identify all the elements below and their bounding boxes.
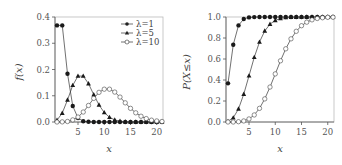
point-marker xyxy=(91,92,96,96)
point-marker xyxy=(128,106,132,110)
point-marker xyxy=(65,97,70,101)
point-marker xyxy=(97,102,102,106)
y-tick-label: 0.3 xyxy=(36,38,50,48)
x-tick-label: 20 xyxy=(151,127,162,137)
y-tick-label: 0.8 xyxy=(207,33,221,43)
point-marker xyxy=(160,119,164,123)
point-marker xyxy=(278,59,282,63)
point-marker xyxy=(81,73,86,77)
legend: λ=1 λ=5 λ=10 xyxy=(121,19,159,47)
point-marker xyxy=(55,23,59,27)
point-marker xyxy=(310,18,314,22)
point-marker xyxy=(107,87,111,91)
point-marker xyxy=(226,81,230,85)
point-marker xyxy=(118,95,122,99)
left-y-ticks: 0.00.10.20.30.4 xyxy=(36,12,55,127)
point-marker xyxy=(112,117,117,121)
x-tick-label: 20 xyxy=(322,127,333,137)
right-x-label: x xyxy=(277,143,283,154)
point-marker xyxy=(294,29,298,33)
point-marker xyxy=(231,120,235,124)
point-marker xyxy=(241,92,246,96)
point-marker xyxy=(102,120,106,124)
point-marker xyxy=(252,15,256,19)
point-marker xyxy=(60,110,65,114)
right-plot: 0.00.20.40.60.81.0 5101520 P(X≤x) x xyxy=(181,12,335,154)
point-marker xyxy=(263,97,267,101)
point-marker xyxy=(92,120,96,124)
y-tick-label: 0.0 xyxy=(36,117,50,127)
point-marker xyxy=(102,87,106,91)
y-tick-label: 1.0 xyxy=(207,12,221,22)
x-tick-label: 5 xyxy=(75,127,80,137)
right-series xyxy=(226,14,336,124)
x-tick-label: 5 xyxy=(246,127,251,137)
right-y-ticks: 0.00.20.40.60.81.0 xyxy=(207,12,226,127)
point-marker xyxy=(284,47,288,51)
point-marker xyxy=(331,15,335,19)
point-marker xyxy=(242,119,246,123)
series-line xyxy=(228,17,333,83)
y-tick-label: 0.2 xyxy=(36,65,50,75)
y-tick-label: 0.0 xyxy=(207,117,221,127)
point-marker xyxy=(71,118,75,122)
point-marker xyxy=(113,90,117,94)
point-marker xyxy=(257,106,261,110)
point-marker xyxy=(299,24,303,28)
y-tick-label: 0.4 xyxy=(36,12,50,22)
point-marker xyxy=(252,55,257,59)
point-marker xyxy=(305,20,309,24)
legend-label-lambda10: λ=10 xyxy=(136,37,159,47)
point-marker xyxy=(257,39,262,43)
right-y-label: P(X≤x) xyxy=(181,54,192,91)
point-marker xyxy=(247,117,251,121)
point-marker xyxy=(60,23,64,27)
point-marker xyxy=(55,120,59,124)
point-marker xyxy=(107,120,111,124)
point-marker xyxy=(65,119,69,123)
y-tick-label: 0.4 xyxy=(207,75,221,85)
point-marker xyxy=(76,73,81,77)
point-marker xyxy=(81,110,85,114)
x-tick-label: 15 xyxy=(125,127,136,137)
point-marker xyxy=(92,96,96,100)
point-marker xyxy=(134,111,138,115)
left-y-label: f(x) xyxy=(13,63,24,81)
point-marker xyxy=(71,104,75,108)
point-marker xyxy=(236,23,240,27)
point-marker xyxy=(70,83,75,87)
point-marker xyxy=(76,115,80,119)
y-tick-label: 0.6 xyxy=(207,54,221,64)
legend-marker-filled-circle xyxy=(125,22,129,26)
point-marker xyxy=(247,73,252,77)
point-marker xyxy=(289,37,293,41)
legend-marker-open-circle xyxy=(125,40,129,44)
point-marker xyxy=(273,72,277,76)
point-marker xyxy=(60,120,64,124)
right-plot-frame xyxy=(226,17,334,122)
point-marker xyxy=(252,113,256,117)
point-marker xyxy=(226,120,230,124)
point-marker xyxy=(65,72,69,76)
point-marker xyxy=(231,115,236,119)
point-marker xyxy=(242,17,246,21)
point-marker xyxy=(144,116,148,120)
point-marker xyxy=(155,119,159,123)
right-x-ticks: 5101520 xyxy=(246,122,333,137)
point-marker xyxy=(97,90,101,94)
point-marker xyxy=(236,106,241,110)
point-marker xyxy=(231,43,235,47)
point-marker xyxy=(86,120,90,124)
left-x-ticks: 5101520 xyxy=(75,122,162,137)
figure: 0.00.10.20.30.4 5101520 f(x) x λ=1 λ=5 λ… xyxy=(0,0,342,165)
point-marker xyxy=(247,15,251,19)
point-marker xyxy=(315,16,319,20)
point-marker xyxy=(149,118,153,122)
left-plot: 0.00.10.20.30.4 5101520 f(x) x λ=1 λ=5 λ… xyxy=(13,12,164,154)
point-marker xyxy=(268,15,272,19)
y-tick-label: 0.2 xyxy=(207,96,221,106)
point-marker xyxy=(123,101,127,105)
x-tick-label: 10 xyxy=(99,127,110,137)
x-tick-label: 10 xyxy=(270,127,281,137)
point-marker xyxy=(139,114,143,118)
